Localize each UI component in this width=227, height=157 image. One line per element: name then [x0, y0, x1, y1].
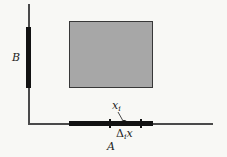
label-delta-main: Δ [116, 127, 124, 140]
segment-B-y-projection [26, 27, 31, 88]
partition-diagram-figure: B xi Δix A [0, 0, 227, 157]
partition-tick-left [109, 119, 111, 128]
partition-tick-right [140, 119, 142, 128]
label-A: A [107, 141, 115, 152]
label-delta-sub-i-x: Δix [116, 128, 133, 139]
sample-point-dot [121, 120, 127, 126]
label-x-sub-i: xi [112, 100, 121, 111]
shaded-rectangle [69, 21, 153, 88]
label-delta-variable: x [127, 127, 133, 140]
label-B: B [12, 52, 20, 63]
label-x-sub-i-subscript: i [118, 104, 121, 113]
